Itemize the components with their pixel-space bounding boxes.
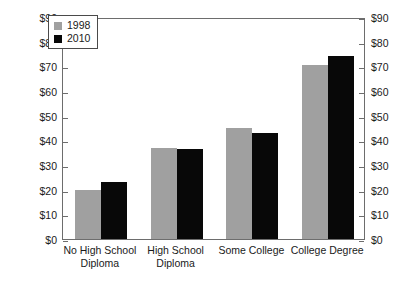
y-tick-left-0 — [63, 241, 68, 242]
y-axis-left-label-70: $70 — [39, 62, 57, 73]
y-tick-right-0 — [359, 241, 364, 242]
y-axis-left-label-40: $40 — [39, 136, 57, 147]
y-tick-left-10 — [63, 216, 68, 217]
y-tick-right-70 — [359, 68, 364, 69]
category-label-line: College Degree — [267, 244, 387, 257]
y-axis-right-label-50: $50 — [371, 112, 389, 123]
category-label-3: College Degree — [267, 244, 387, 257]
y-tick-right-20 — [359, 192, 364, 193]
y-axis-right-label-70: $70 — [371, 62, 389, 73]
y-tick-right-80 — [359, 44, 364, 45]
legend-label: 1998 — [67, 20, 90, 31]
bar-2010-2 — [252, 133, 278, 239]
y-axis-right-label-20: $20 — [371, 186, 389, 197]
legend-item-1998: 1998 — [54, 19, 90, 32]
bar-1998-0 — [75, 190, 101, 239]
legend-label: 2010 — [67, 33, 90, 44]
y-tick-right-60 — [359, 93, 364, 94]
y-tick-left-40 — [63, 142, 68, 143]
y-tick-left-50 — [63, 118, 68, 119]
bar-2010-0 — [101, 182, 127, 239]
y-tick-left-30 — [63, 167, 68, 168]
plot-area — [62, 18, 365, 240]
legend-swatch-icon-1998 — [54, 22, 62, 30]
bar-1998-2 — [226, 128, 252, 239]
y-axis-left-label-20: $20 — [39, 186, 57, 197]
y-axis-left-label-60: $60 — [39, 87, 57, 98]
y-axis-left-label-10: $10 — [39, 210, 57, 221]
y-tick-right-30 — [359, 167, 364, 168]
bar-1998-1 — [151, 148, 177, 239]
y-tick-left-60 — [63, 93, 68, 94]
legend-swatch-icon-2010 — [54, 35, 62, 43]
y-axis-right-label-90: $90 — [371, 13, 389, 24]
bar-chart: $0$10$20$30$40$50$60$70$80$90 $0$10$20$3… — [0, 0, 415, 288]
y-axis-right-label-30: $30 — [371, 161, 389, 172]
y-axis-right-label-80: $80 — [371, 38, 389, 49]
y-tick-right-50 — [359, 118, 364, 119]
y-axis-right-label-10: $10 — [371, 210, 389, 221]
category-label-line: Diploma — [116, 257, 236, 270]
y-axis-right-label-60: $60 — [371, 87, 389, 98]
legend: 19982010 — [48, 15, 98, 49]
bar-1998-3 — [302, 65, 328, 239]
legend-item-2010: 2010 — [54, 32, 90, 45]
y-tick-right-10 — [359, 216, 364, 217]
y-axis-left-label-50: $50 — [39, 112, 57, 123]
y-tick-right-40 — [359, 142, 364, 143]
y-axis-right-label-40: $40 — [371, 136, 389, 147]
y-axis-left-label-30: $30 — [39, 161, 57, 172]
y-tick-left-20 — [63, 192, 68, 193]
bar-2010-1 — [177, 149, 203, 239]
bar-2010-3 — [328, 56, 354, 239]
y-tick-left-70 — [63, 68, 68, 69]
y-tick-right-90 — [359, 19, 364, 20]
